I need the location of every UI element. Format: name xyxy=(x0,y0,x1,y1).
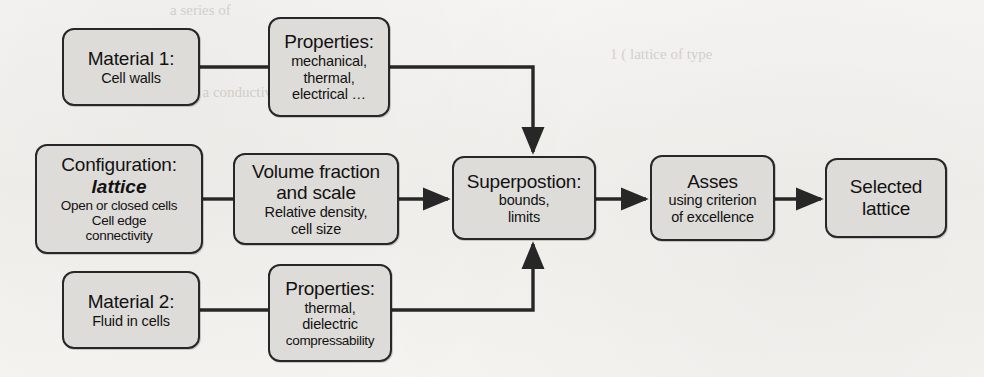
flowchart-page: a series of shell with a conductivity lo… xyxy=(0,0,984,377)
connector-properties-1-to-superposition xyxy=(390,67,533,152)
node-selected-lattice[interactable]: Selected lattice xyxy=(825,158,947,238)
node-selected-lattice-title-line-2: lattice xyxy=(862,198,910,220)
node-material-1[interactable]: Material 1: Cell walls xyxy=(62,28,200,106)
node-superposition-title: Superpostion: xyxy=(467,171,582,193)
node-properties-1-title: Properties: xyxy=(284,31,374,53)
background-ghost-text: 1 ( lattice of type xyxy=(610,46,712,63)
node-properties-2-title: Properties: xyxy=(285,278,375,300)
node-volume-fraction-sub-1: Relative density, xyxy=(265,204,368,221)
node-properties-1[interactable]: Properties: mechanical, thermal, electri… xyxy=(268,17,390,117)
node-material-1-sub-1: Cell walls xyxy=(101,70,161,87)
node-volume-fraction-title-line-2: and scale xyxy=(276,182,356,204)
node-properties-2-sub-2: dielectric xyxy=(302,316,358,333)
node-configuration-sub-1: Open or closed cells xyxy=(61,198,177,213)
node-properties-1-sub-3: electrical … xyxy=(292,86,366,103)
background-ghost-text: a series of xyxy=(170,2,231,19)
node-configuration-sub-2: Cell edge xyxy=(92,213,146,228)
node-properties-1-sub-2: thermal, xyxy=(303,70,354,87)
node-superposition-sub-2: limits xyxy=(508,209,540,226)
connector-properties-2-to-superposition xyxy=(392,244,533,310)
node-asses-title: Asses xyxy=(687,171,738,193)
node-configuration-sub-3: connectivity xyxy=(86,228,153,243)
node-properties-2[interactable]: Properties: thermal, dielectric compress… xyxy=(268,264,392,362)
node-material-2-title: Material 2: xyxy=(88,291,175,313)
node-configuration-title: Configuration: xyxy=(61,154,177,176)
node-asses-sub-2: of excellence xyxy=(671,209,754,226)
node-asses-sub-1: using criterion xyxy=(668,192,756,209)
node-volume-fraction-title-line-1: Volume fraction xyxy=(252,161,380,183)
node-material-2-sub-1: Fluid in cells xyxy=(92,313,170,330)
node-asses[interactable]: Asses using criterion of excellence xyxy=(650,155,775,241)
node-configuration[interactable]: Configuration: lattice Open or closed ce… xyxy=(35,144,203,254)
node-properties-2-sub-3: compressability xyxy=(286,333,375,348)
node-superposition-sub-1: bounds, xyxy=(499,192,550,209)
node-volume-fraction[interactable]: Volume fraction and scale Relative densi… xyxy=(233,153,399,245)
node-volume-fraction-sub-2: cell size xyxy=(291,221,341,238)
node-material-2[interactable]: Material 2: Fluid in cells xyxy=(62,271,200,349)
node-properties-2-sub-1: thermal, xyxy=(304,300,355,317)
node-superposition[interactable]: Superpostion: bounds, limits xyxy=(452,156,596,240)
node-properties-1-sub-1: mechanical, xyxy=(291,53,367,70)
node-configuration-emphasis: lattice xyxy=(92,176,147,198)
node-material-1-title: Material 1: xyxy=(88,48,175,70)
node-selected-lattice-title-line-1: Selected xyxy=(850,176,922,198)
